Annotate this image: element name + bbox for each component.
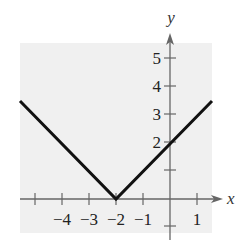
y-tick-label: 5 bbox=[153, 49, 162, 68]
x-tick-label: −1 bbox=[134, 210, 152, 229]
x-tick-label: −4 bbox=[53, 210, 72, 229]
x-tick-label: 1 bbox=[193, 210, 202, 229]
y-tick-label: 2 bbox=[153, 133, 162, 152]
x-tick-label: −2 bbox=[107, 210, 125, 229]
x-axis-label: x bbox=[226, 189, 235, 208]
x-tick-label: −3 bbox=[80, 210, 98, 229]
y-tick-label: 3 bbox=[153, 105, 162, 124]
y-tick-label: 4 bbox=[153, 77, 162, 96]
y-axis-label: y bbox=[165, 8, 175, 27]
chart-canvas: −4 −3 −2 −1 1 2 3 4 5 x y bbox=[0, 0, 238, 243]
